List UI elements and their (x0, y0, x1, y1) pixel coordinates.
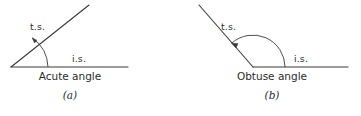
figure-sheet: t.s. i.s. Acute angle (a) t.s. i.s. Obtu… (0, 0, 361, 116)
figure-panel-acute: t.s. i.s. Acute angle (a) (0, 0, 180, 116)
initial-side-label-b: i.s. (294, 53, 308, 64)
rotation-arrowhead-b (232, 43, 238, 48)
terminal-side-label-b: t.s. (221, 21, 236, 32)
rotation-arrowhead-a (32, 38, 37, 43)
initial-side-label-a: i.s. (72, 53, 86, 64)
figure-caption-acute: Acute angle (20, 70, 120, 82)
figure-caption-obtuse: Obtuse angle (222, 70, 322, 82)
figure-panel-obtuse: t.s. i.s. Obtuse angle (b) (180, 0, 361, 116)
figure-index-a: (a) (20, 89, 120, 101)
terminal-side-label-a: t.s. (30, 21, 45, 32)
figure-index-b: (b) (222, 89, 322, 101)
